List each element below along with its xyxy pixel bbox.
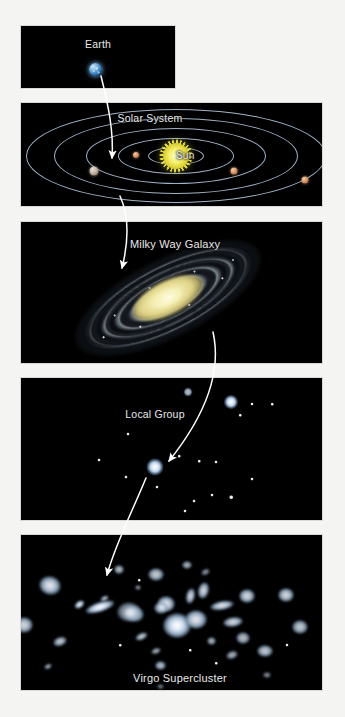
virgo-galaxy — [155, 661, 166, 670]
panel-virgo-supercluster — [21, 535, 322, 690]
local-group-star — [211, 494, 214, 497]
virgo-star — [119, 644, 122, 647]
virgo-galaxy — [52, 634, 68, 647]
local-group-star — [251, 478, 254, 481]
virgo-galaxy — [21, 617, 33, 633]
virgo-galaxy — [43, 662, 52, 670]
virgo-galaxy — [236, 632, 250, 644]
planet-right — [231, 168, 238, 175]
label-sun: Sun — [176, 150, 194, 161]
panel-local-group — [21, 378, 322, 520]
virgo-galaxy — [134, 630, 149, 642]
virgo-galaxy — [257, 645, 273, 657]
local-group-star — [125, 476, 128, 479]
virgo-galaxy — [209, 598, 234, 611]
label-virgo-supercluster: Virgo Supercluster — [133, 672, 227, 684]
local-group-star — [229, 495, 233, 499]
virgo-galaxy — [239, 589, 255, 603]
virgo-star — [189, 649, 192, 652]
local-group-star — [198, 460, 201, 463]
local-group-star — [193, 500, 196, 503]
local-group-galaxy — [184, 388, 193, 397]
planet-inner-left — [133, 152, 139, 158]
label-earth: Earth — [85, 38, 111, 50]
virgo-galaxy — [207, 637, 216, 645]
virgo-galaxy — [135, 585, 141, 590]
planet-far-right — [302, 177, 309, 184]
virgo-galaxy — [292, 620, 308, 634]
virgo-galaxy — [157, 684, 164, 689]
virgo-galaxy — [225, 649, 239, 661]
local-group-galaxy — [224, 395, 238, 409]
local-group-star — [239, 414, 242, 417]
local-group-star — [215, 461, 218, 464]
planet-earth-marker — [90, 167, 99, 176]
virgo-star — [215, 662, 218, 665]
virgo-galaxy — [184, 587, 196, 605]
local-group-star — [251, 403, 254, 406]
virgo-galaxy — [185, 610, 207, 629]
local-group-star — [98, 459, 101, 462]
virgo-galaxy — [278, 588, 294, 602]
virgo-galaxy — [150, 646, 161, 655]
virgo-galaxy — [37, 573, 63, 597]
earth-globe-icon — [89, 63, 102, 76]
local-group-star — [184, 510, 187, 513]
local-group-star — [271, 403, 274, 406]
local-group-star — [127, 433, 130, 436]
virgo-galaxy — [154, 602, 168, 614]
local-group-star — [178, 455, 181, 458]
virgo-galaxy — [263, 672, 271, 678]
virgo-galaxy — [72, 598, 85, 610]
virgo-galaxy — [200, 567, 211, 576]
local-group-galaxy — [147, 459, 164, 476]
virgo-galaxy — [117, 602, 141, 622]
virgo-galaxy — [182, 561, 192, 569]
virgo-galaxy — [148, 568, 164, 581]
virgo-galaxy — [196, 580, 211, 599]
label-local-group: Local Group — [125, 408, 184, 420]
virgo-galaxy — [222, 616, 243, 629]
panel-earth — [21, 26, 175, 88]
label-milky-way-galaxy: Milky Way Galaxy — [130, 238, 220, 250]
label-solar-system: Solar System — [118, 112, 183, 124]
cosmic-scale-figure: Earth Solar System Sun Milky Way Galaxy … — [0, 0, 345, 717]
virgo-galaxy — [114, 565, 124, 574]
virgo-star — [138, 579, 141, 582]
local-group-star — [156, 486, 159, 489]
virgo-star — [286, 644, 289, 647]
